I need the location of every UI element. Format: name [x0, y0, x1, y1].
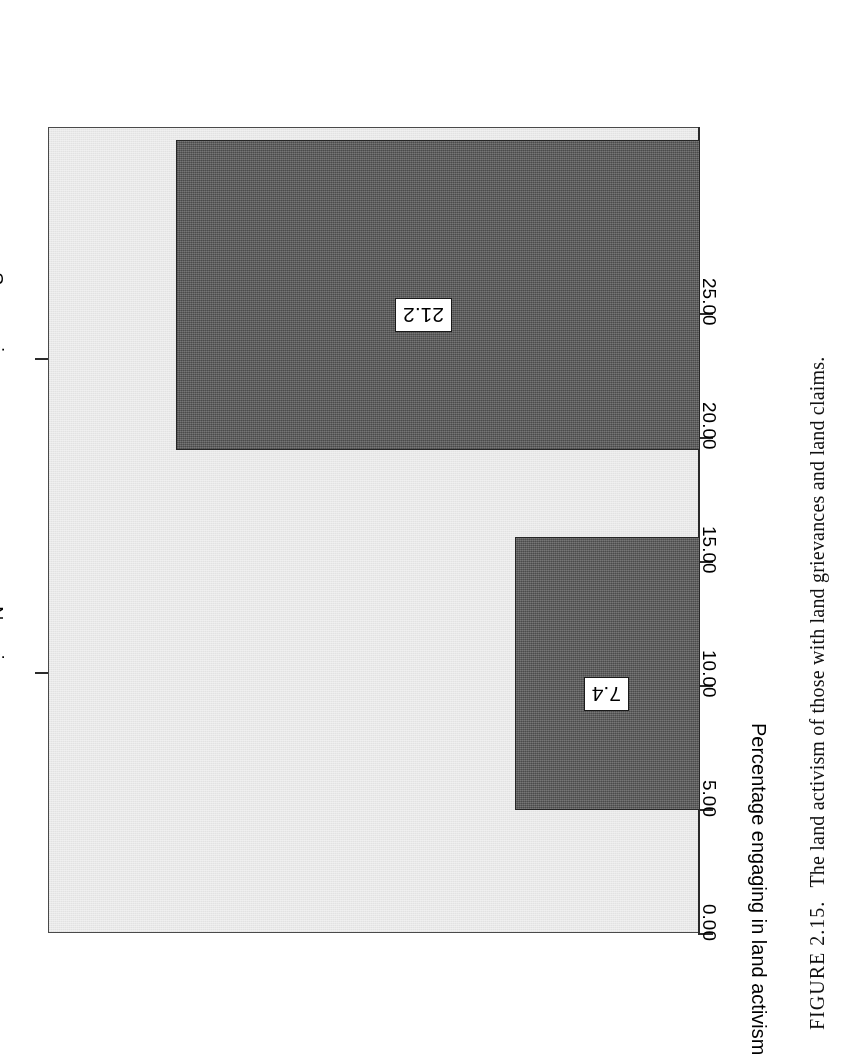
category-label-some-grievance: Some grievance: [0, 272, 7, 417]
value-axis-title: Percentage engaging in land activism: [747, 723, 770, 1055]
category-label-no-grievance: No grievance: [0, 606, 7, 724]
category-tick-some-grievance: [35, 358, 48, 360]
figure-number: FIGURE 2.15.: [806, 901, 828, 1030]
category-tick-no-grievance: [35, 672, 48, 674]
bar-no-grievance: [515, 537, 700, 810]
value-tick-label-10: 10.00: [698, 650, 720, 698]
value-tick-label-0: 0.00: [698, 904, 720, 941]
figure-caption: FIGURE 2.15. The land activism of those …: [806, 357, 829, 1030]
figure-caption-text: The land activism of those with land gri…: [806, 357, 828, 888]
bar-value-label-some-grievance: 21.2: [395, 298, 452, 332]
bar-some-grievance: [176, 140, 700, 450]
value-tick-label-20: 20.00: [698, 402, 720, 450]
value-tick-label-15: 15.00: [698, 526, 720, 574]
value-tick-label-5: 5.00: [698, 780, 720, 817]
value-tick-label-25: 25.00: [698, 278, 720, 326]
bar-value-label-no-grievance: 7.4: [584, 677, 629, 711]
figure-canvas: 0.00 5.00 10.00 15.00 20.00 25.00 Percen…: [0, 0, 858, 1062]
